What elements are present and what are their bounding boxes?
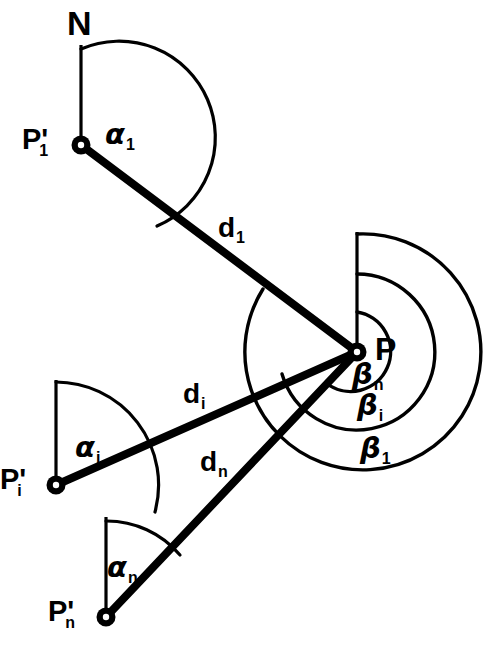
distance-dn-label: dn — [200, 448, 227, 476]
marker-station-1 — [72, 136, 91, 155]
beta-n-base: β — [352, 357, 373, 391]
alpha-1-base: α — [105, 117, 125, 151]
distance-di-label: di — [183, 380, 205, 408]
station-1-subscript: 1 — [39, 142, 48, 159]
station-i-subscript: i — [17, 482, 21, 499]
beta-i-label: βi — [357, 391, 382, 420]
alpha-i-label: αi — [75, 433, 99, 462]
north-label: N — [67, 6, 92, 40]
beta-i-base: β — [357, 388, 378, 422]
distance-d1-label: d1 — [218, 214, 244, 242]
distance-di-subscript: i — [201, 395, 205, 412]
diagram-svg — [0, 0, 490, 649]
station-n-subscript: n — [65, 614, 75, 631]
distance-ray-d1 — [81, 145, 357, 352]
beta-1-subscript: 1 — [382, 450, 391, 467]
alpha-n-subscript: n — [128, 569, 138, 586]
distance-d1-subscript: 1 — [236, 229, 245, 246]
distance-ray-dn — [106, 352, 357, 617]
alpha-i-subscript: i — [96, 449, 100, 466]
alpha-n-base: α — [107, 550, 127, 584]
station-1-label: P'1 — [22, 125, 57, 154]
alpha-1-subscript: 1 — [126, 136, 135, 153]
alpha-1-label: α1 — [105, 120, 134, 149]
distance-dn-base: d — [200, 446, 217, 477]
distance-dn-subscript: n — [218, 463, 228, 480]
marker-station-i — [47, 476, 66, 495]
distance-d1-base: d — [218, 212, 235, 243]
beta-1-label: β1 — [360, 434, 390, 463]
diagram-canvas: N P P'1 P'i P'n d1 di dn α1 αi αn βn βi … — [0, 0, 490, 649]
station-n-label: P'n — [48, 597, 84, 626]
beta-n-label: βn — [352, 360, 383, 389]
station-i-label: P'i — [0, 465, 31, 494]
beta-i-subscript: i — [379, 407, 383, 424]
alpha-i-base: α — [75, 430, 95, 464]
alpha-n-label: αn — [107, 553, 137, 582]
marker-station-n — [97, 608, 116, 627]
distance-di-base: d — [183, 378, 200, 409]
beta-1-base: β — [360, 431, 381, 465]
point-markers-group — [47, 136, 367, 627]
north-lines-group — [56, 45, 357, 617]
distance-rays-group — [56, 145, 357, 617]
